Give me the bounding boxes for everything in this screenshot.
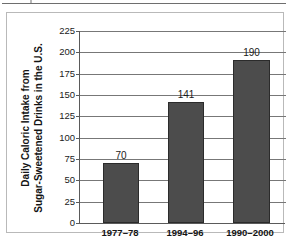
y-tick-label: 25 [49,197,75,207]
y-tick-label: 200 [49,47,75,57]
x-tick-label-1990-2000: 1990–2000 [214,227,286,238]
bar-value-label: 70 [103,150,139,161]
chart-figure-frame: Daily Caloric Intake from Sugar-Sweetene… [6,12,284,233]
y-tick-label: 50 [49,175,75,185]
y-axis-title-line-2: Sugar-Sweetened Drinks in the U.S. [32,43,45,212]
bar-value-label: 190 [233,47,270,58]
y-tick-label: 150 [49,90,75,100]
y-axis-title-line-1: Daily Caloric Intake from [19,43,32,212]
y-tick-mark [76,31,80,32]
y-tick-label: 175 [49,69,75,79]
page-top-rule [2,3,286,4]
page-top-tick-mark [30,0,32,3]
gridline-225 [80,31,286,32]
y-axis-tick-labels: 225 200 175 150 125 100 75 50 25 0 [47,31,75,224]
y-tick-mark [76,159,80,160]
bar-1977-78[interactable] [103,163,139,223]
y-tick-label: 75 [49,154,75,164]
x-tick-label-1994-96: 1994–96 [149,227,221,238]
figure-page: Daily Caloric Intake from Sugar-Sweetene… [0,0,290,242]
y-axis-title: Daily Caloric Intake from Sugar-Sweetene… [15,31,49,224]
bar-1990-2000[interactable] [233,60,270,223]
bar-value-label: 141 [168,89,204,100]
y-tick-mark [76,138,80,139]
x-tick-label-1977-78: 1977–78 [84,227,156,238]
x-axis-tick-labels: 1977–78 1994–96 1990–2000 [79,227,285,242]
y-tick-mark [76,52,80,53]
y-tick-label: 225 [49,26,75,36]
y-tick-mark [76,223,80,224]
y-tick-label: 125 [49,111,75,121]
plot-area: 70 141 190 [79,31,285,224]
bar-1994-96[interactable] [168,102,204,223]
y-tick-mark [76,116,80,117]
y-tick-mark [76,95,80,96]
y-tick-mark [76,202,80,203]
y-tick-mark [76,180,80,181]
y-tick-label: 0 [49,218,75,228]
y-tick-label: 100 [49,133,75,143]
y-tick-mark [76,74,80,75]
